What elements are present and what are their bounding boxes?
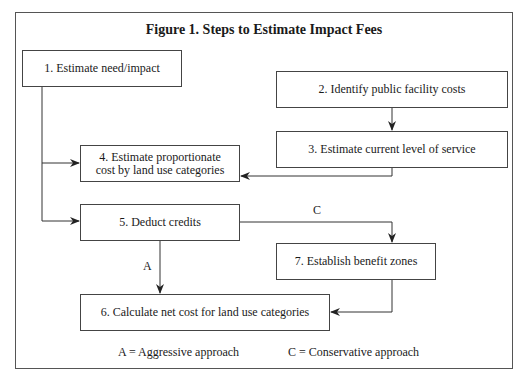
path-label-a: A <box>143 259 152 274</box>
step-3-box: 3. Estimate current level of service <box>276 131 508 168</box>
step-6-box: 6. Calculate net cost for land use categ… <box>80 294 330 331</box>
step-4-label-line1: 4. Estimate proportionate <box>99 151 221 164</box>
step-7-box: 7. Establish benefit zones <box>276 243 436 280</box>
step-1-label: 1. Estimate need/impact <box>44 62 160 75</box>
path-label-c: C <box>313 203 321 218</box>
edge-3-to-4 <box>241 167 392 176</box>
edge-7-to-6 <box>331 279 392 312</box>
step-3-label: 3. Estimate current level of service <box>308 143 475 156</box>
step-5-label: 5. Deduct credits <box>119 216 201 229</box>
step-5-box: 5. Deduct credits <box>80 204 240 241</box>
step-4-box: 4. Estimate proportionate cost by land u… <box>80 145 240 182</box>
step-2-label: 2. Identify public facility costs <box>319 83 466 96</box>
step-6-label: 6. Calculate net cost for land use categ… <box>101 306 310 319</box>
step-2-box: 2. Identify public facility costs <box>276 71 508 108</box>
step-7-label: 7. Establish benefit zones <box>295 255 418 268</box>
legend-conservative: C = Conservative approach <box>288 345 419 360</box>
legend-aggressive: A = Aggressive approach <box>118 345 239 360</box>
edge-5-to-7 <box>240 222 392 242</box>
step-4-label-line2: cost by land use categories <box>96 164 225 177</box>
step-1-box: 1. Estimate need/impact <box>22 50 182 87</box>
